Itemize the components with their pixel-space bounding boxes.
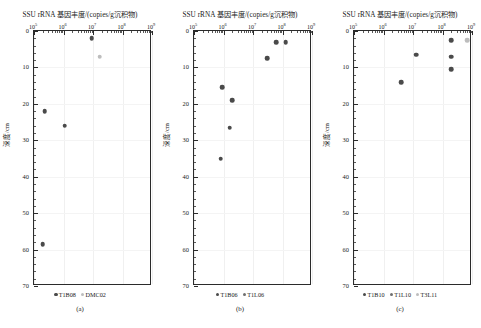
gridline-horizontal <box>194 140 310 141</box>
xtick-minor <box>303 31 304 33</box>
gridline-horizontal <box>34 140 150 141</box>
xtick-minor <box>291 31 292 33</box>
gridline-horizontal <box>34 213 150 214</box>
data-point <box>89 36 94 41</box>
legend-marker-icon <box>243 293 246 296</box>
panel-b-xtick-labels: 105106107108109 <box>160 21 320 30</box>
panel-a-plot-area <box>33 30 151 285</box>
ytick-minor <box>34 220 36 221</box>
ytick-minor <box>354 111 356 112</box>
ytick-major <box>354 286 358 287</box>
gridline-horizontal <box>194 250 310 251</box>
xtick-minor <box>81 31 82 33</box>
ytick-minor <box>194 220 196 221</box>
xtick-minor <box>300 31 301 33</box>
ytick-minor <box>194 38 196 39</box>
ytick-minor <box>354 118 356 119</box>
ytick-label: 40 <box>23 172 29 179</box>
legend-item: T1B06 <box>216 290 238 299</box>
ytick-minor <box>34 133 36 134</box>
ytick-label: 20 <box>343 99 349 106</box>
data-point <box>41 242 46 247</box>
ytick-minor <box>34 162 36 163</box>
xtick-minor <box>434 31 435 33</box>
ytick-minor <box>354 184 356 185</box>
ytick-label: 50 <box>23 209 29 216</box>
xtick-minor <box>460 31 461 33</box>
data-point <box>98 54 103 59</box>
ytick-minor <box>34 279 36 280</box>
xtick-minor <box>401 31 402 33</box>
ytick-minor <box>34 271 36 272</box>
ytick-minor <box>194 46 196 47</box>
panel-c-caption: (c) <box>320 305 480 312</box>
ytick-minor <box>34 75 36 76</box>
xtick-minor <box>137 31 138 33</box>
ytick-minor <box>354 228 356 229</box>
ytick-minor <box>34 38 36 39</box>
ytick-minor <box>354 89 356 90</box>
ytick-major <box>34 177 38 178</box>
panel-b: SSU rRNA 基因丰度/(copies/g沉积物) 105106107108… <box>160 0 320 328</box>
gridline-horizontal <box>34 104 150 105</box>
data-point <box>284 40 289 45</box>
data-point <box>220 85 225 90</box>
panel-c-legend: T1B10T1L10T3L11 <box>320 290 480 299</box>
ytick-label: 30 <box>23 136 29 143</box>
ytick-minor <box>34 191 36 192</box>
ytick-minor <box>34 228 36 229</box>
data-point <box>218 156 223 161</box>
ytick-minor <box>194 169 196 170</box>
xtick-minor <box>246 31 247 33</box>
xtick-minor <box>57 31 58 33</box>
ytick-minor <box>354 75 356 76</box>
ytick-minor <box>354 162 356 163</box>
ytick-major <box>34 140 38 141</box>
xtick-minor <box>276 31 277 33</box>
ytick-major <box>354 104 358 105</box>
ytick-major <box>354 67 358 68</box>
xtick-major <box>152 31 153 35</box>
ytick-minor <box>354 82 356 83</box>
ytick-minor <box>354 279 356 280</box>
ytick-minor <box>354 46 356 47</box>
panel-b-plot-area <box>193 30 311 285</box>
ytick-label: 20 <box>23 99 29 106</box>
ytick-major <box>34 31 38 32</box>
ytick-minor <box>194 118 196 119</box>
data-point <box>227 125 232 130</box>
gridline-horizontal <box>354 213 470 214</box>
panel-a: SSU rRNA 基因丰度/(copies/g沉积物) 105106107108… <box>0 0 160 328</box>
panel-a-caption: (a) <box>0 305 160 312</box>
legend-label: DMC02 <box>86 291 106 298</box>
ytick-minor <box>194 235 196 236</box>
panel-b-legend: T1B06T1L06 <box>160 290 320 299</box>
ytick-minor <box>194 257 196 258</box>
ytick-minor <box>194 111 196 112</box>
xtick-minor <box>422 31 423 33</box>
ytick-minor <box>194 184 196 185</box>
ytick-label: 0 <box>346 27 349 34</box>
ytick-major <box>194 67 198 68</box>
panel-c-xtick-labels: 105106107108109 <box>320 21 480 30</box>
legend-item: DMC02 <box>81 290 106 299</box>
ytick-minor <box>34 46 36 47</box>
legend-label: T1B08 <box>59 291 76 298</box>
gridline-horizontal <box>194 213 310 214</box>
legend-item: T1B10 <box>363 290 385 299</box>
ytick-major <box>34 67 38 68</box>
gridline-horizontal <box>34 177 150 178</box>
xtick-minor <box>262 31 263 33</box>
legend-marker-icon <box>81 293 84 296</box>
gridline-horizontal <box>354 250 470 251</box>
ytick-minor <box>194 162 196 163</box>
legend-label: T1L10 <box>394 291 411 298</box>
ytick-major <box>194 250 198 251</box>
gridline-horizontal <box>194 104 310 105</box>
legend-item: T1B08 <box>54 290 76 299</box>
ytick-minor <box>354 264 356 265</box>
gridline-vertical <box>224 31 225 284</box>
ytick-minor <box>354 169 356 170</box>
ytick-label: 10 <box>183 63 189 70</box>
ytick-minor <box>354 257 356 258</box>
